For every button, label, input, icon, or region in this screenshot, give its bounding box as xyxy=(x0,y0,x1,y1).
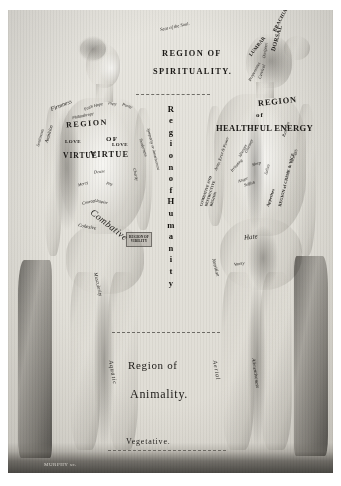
engraving-plate: Seat of the Soul. REGION OF SPIRITUALITY… xyxy=(8,10,333,473)
left-figure-drapery xyxy=(18,260,52,458)
humanity-letter: n xyxy=(158,162,184,172)
left-chest-region-virtue-left: VIRTUE xyxy=(63,152,98,160)
humanity-letter: i xyxy=(158,254,184,264)
left-badge-region-of-virility: REGION OF VIRILITY xyxy=(126,232,152,247)
seat-of-the-soul-label: Seat of the Soul. xyxy=(160,21,190,32)
humanity-letter: m xyxy=(158,220,184,230)
region-of-spirituality-line1: REGION OF xyxy=(162,50,222,58)
humanity-letter: o xyxy=(158,150,184,160)
left-label-love-right: LOVE xyxy=(112,142,128,147)
region-of-animality-line1: Region of xyxy=(128,360,178,371)
humanity-letter: f xyxy=(158,185,184,195)
humanity-letter: i xyxy=(158,138,184,148)
humanity-letter: y xyxy=(158,278,184,288)
humanity-letter: R xyxy=(158,104,184,114)
region-of-spirituality-line2: SPIRITUALITY. xyxy=(153,68,232,76)
right-figure-hairbun xyxy=(284,36,310,60)
humanity-letter: g xyxy=(158,127,184,137)
right-back-region-line2: of xyxy=(256,112,264,119)
screenshot-root: Seat of the Soul. REGION OF SPIRITUALITY… xyxy=(0,0,341,486)
right-label-nutrition: Nutrition xyxy=(211,258,220,277)
region-of-humanity-column: R e g i o n o f H u m a n i t y xyxy=(158,102,184,334)
left-figure-hair-shadow xyxy=(78,36,108,62)
humanity-letter: e xyxy=(158,115,184,125)
humanity-letter: t xyxy=(158,266,184,276)
base-plinth xyxy=(8,443,333,473)
left-label-piety: Piety xyxy=(108,102,117,107)
humanity-letter: a xyxy=(158,231,184,241)
left-label-love-left: LOVE xyxy=(65,139,81,144)
humanity-letter: u xyxy=(158,208,184,218)
spirituality-divider xyxy=(136,94,210,95)
humanity-letter: H xyxy=(158,196,184,206)
right-back-region-line3: HEALTHFUL ENERGY xyxy=(216,124,313,133)
humanity-letter: n xyxy=(158,243,184,253)
right-label-hate: Hate xyxy=(244,233,258,241)
right-label-aerial: Aerial xyxy=(212,360,221,381)
right-figure-drapery xyxy=(294,256,328,456)
region-of-animality-line2: Animality. xyxy=(130,388,188,400)
engraver-signature: MURPHY sc. xyxy=(44,462,77,467)
humanity-letter: o xyxy=(158,173,184,183)
